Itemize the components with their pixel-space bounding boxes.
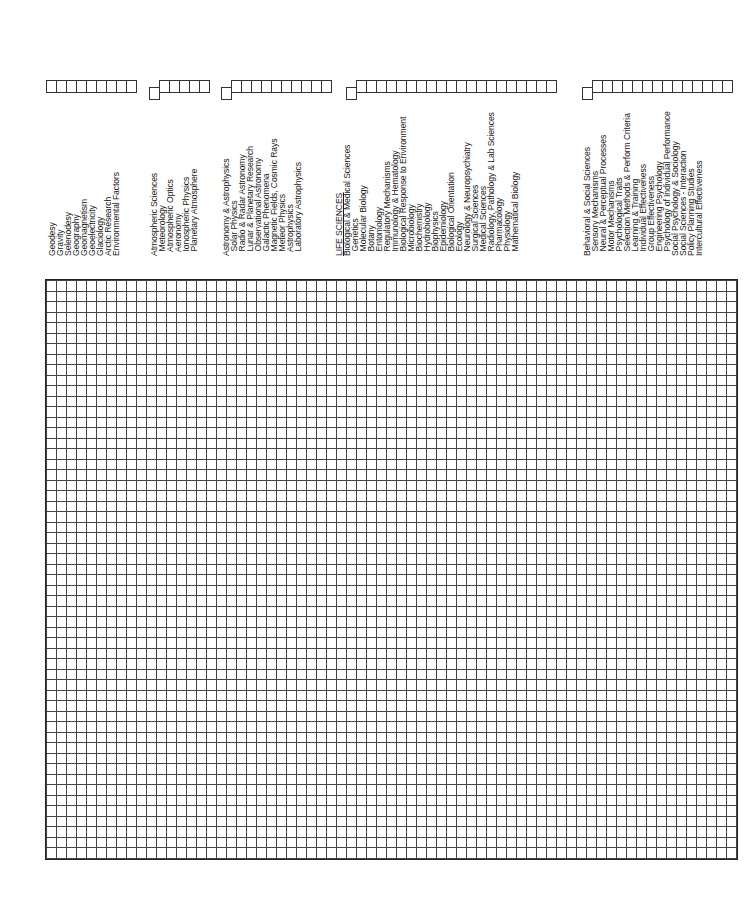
grid-cell[interactable] — [567, 522, 577, 533]
grid-cell[interactable] — [107, 396, 117, 407]
grid-cell[interactable] — [77, 491, 87, 502]
grid-cell[interactable] — [577, 837, 587, 848]
grid-cell[interactable] — [427, 281, 437, 292]
grid-cell[interactable] — [657, 375, 667, 386]
grid-cell[interactable] — [267, 753, 277, 764]
grid-cell[interactable] — [547, 606, 557, 617]
grid-cell[interactable] — [287, 659, 297, 670]
grid-cell[interactable] — [417, 659, 427, 670]
grid-cell[interactable] — [457, 396, 467, 407]
grid-cell[interactable] — [437, 344, 447, 355]
grid-cell[interactable] — [527, 690, 537, 701]
grid-cell[interactable] — [697, 827, 707, 838]
grid-cell[interactable] — [77, 648, 87, 659]
grid-cell[interactable] — [717, 690, 727, 701]
grid-cell[interactable] — [197, 354, 207, 365]
grid-cell[interactable] — [177, 386, 187, 397]
grid-cell[interactable] — [417, 281, 427, 292]
grid-cell[interactable] — [717, 638, 727, 649]
grid-cell[interactable] — [707, 491, 717, 502]
grid-cell[interactable] — [97, 365, 107, 376]
grid-cell[interactable] — [537, 417, 547, 428]
grid-cell[interactable] — [367, 375, 377, 386]
grid-cell[interactable] — [147, 795, 157, 806]
grid-cell[interactable] — [617, 606, 627, 617]
grid-cell[interactable] — [197, 386, 207, 397]
grid-cell[interactable] — [77, 312, 87, 323]
grid-cell[interactable] — [657, 302, 667, 313]
grid-cell[interactable] — [377, 302, 387, 313]
grid-cell[interactable] — [327, 732, 337, 743]
grid-cell[interactable] — [307, 627, 317, 638]
grid-cell[interactable] — [217, 554, 227, 565]
grid-cell[interactable] — [657, 690, 667, 701]
grid-cell[interactable] — [507, 575, 517, 586]
grid-cell[interactable] — [597, 701, 607, 712]
grid-cell[interactable] — [47, 491, 57, 502]
grid-cell[interactable] — [487, 827, 497, 838]
grid-cell[interactable] — [427, 596, 437, 607]
grid-cell[interactable] — [447, 417, 457, 428]
grid-cell[interactable] — [727, 438, 737, 449]
grid-cell[interactable] — [437, 480, 447, 491]
grid-cell[interactable] — [97, 711, 107, 722]
grid-cell[interactable] — [197, 638, 207, 649]
grid-cell[interactable] — [627, 648, 637, 659]
grid-cell[interactable] — [527, 438, 537, 449]
grid-cell[interactable] — [697, 512, 707, 523]
grid-cell[interactable] — [347, 470, 357, 481]
grid-cell[interactable] — [137, 585, 147, 596]
grid-cell[interactable] — [207, 344, 217, 355]
grid-cell[interactable] — [567, 438, 577, 449]
grid-cell[interactable] — [327, 459, 337, 470]
grid-cell[interactable] — [257, 470, 267, 481]
grid-cell[interactable] — [297, 554, 307, 565]
grid-cell[interactable] — [527, 449, 537, 460]
grid-cell[interactable] — [607, 333, 617, 344]
grid-cell[interactable] — [77, 375, 87, 386]
grid-cell[interactable] — [247, 428, 257, 439]
grid-cell[interactable] — [487, 753, 497, 764]
grid-cell[interactable] — [357, 764, 367, 775]
grid-cell[interactable] — [507, 753, 517, 764]
grid-cell[interactable] — [677, 722, 687, 733]
grid-cell[interactable] — [567, 753, 577, 764]
grid-cell[interactable] — [547, 281, 557, 292]
grid-cell[interactable] — [427, 365, 437, 376]
grid-cell[interactable] — [197, 711, 207, 722]
grid-cell[interactable] — [217, 806, 227, 817]
grid-cell[interactable] — [97, 396, 107, 407]
grid-cell[interactable] — [467, 417, 477, 428]
grid-cell[interactable] — [247, 732, 257, 743]
grid-cell[interactable] — [277, 806, 287, 817]
grid-cell[interactable] — [657, 848, 667, 859]
grid-cell[interactable] — [677, 312, 687, 323]
grid-cell[interactable] — [347, 428, 357, 439]
grid-cell[interactable] — [317, 690, 327, 701]
grid-cell[interactable] — [197, 375, 207, 386]
grid-cell[interactable] — [407, 522, 417, 533]
grid-cell[interactable] — [267, 785, 277, 796]
grid-cell[interactable] — [527, 543, 537, 554]
grid-cell[interactable] — [717, 764, 727, 775]
grid-cell[interactable] — [687, 648, 697, 659]
grid-cell[interactable] — [217, 428, 227, 439]
grid-cell[interactable] — [187, 354, 197, 365]
grid-cell[interactable] — [647, 659, 657, 670]
grid-cell[interactable] — [437, 701, 447, 712]
grid-cell[interactable] — [237, 354, 247, 365]
grid-cell[interactable] — [357, 501, 367, 512]
grid-cell[interactable] — [497, 501, 507, 512]
grid-cell[interactable] — [447, 837, 457, 848]
grid-cell[interactable] — [337, 480, 347, 491]
grid-cell[interactable] — [57, 312, 67, 323]
grid-cell[interactable] — [507, 564, 517, 575]
grid-cell[interactable] — [227, 680, 237, 691]
grid-cell[interactable] — [597, 417, 607, 428]
grid-cell[interactable] — [347, 837, 357, 848]
grid-cell[interactable] — [517, 375, 527, 386]
grid-cell[interactable] — [437, 816, 447, 827]
grid-cell[interactable] — [377, 396, 387, 407]
grid-cell[interactable] — [507, 470, 517, 481]
grid-cell[interactable] — [47, 375, 57, 386]
